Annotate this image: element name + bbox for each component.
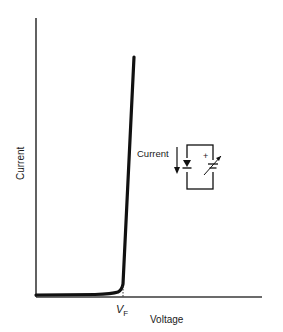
diode-iv-diagram: VF Voltage Current Current + bbox=[0, 0, 283, 332]
inset-circuit: Current + bbox=[137, 145, 221, 189]
y-axis-label: Current bbox=[15, 146, 26, 180]
vf-label: VF bbox=[116, 303, 128, 318]
iv-curve bbox=[36, 57, 134, 295]
arrowhead-icon bbox=[174, 167, 180, 174]
x-axis-label: Voltage bbox=[150, 314, 184, 325]
diode-icon bbox=[183, 158, 192, 172]
inset-current-label: Current bbox=[137, 148, 169, 159]
polarity-plus: + bbox=[203, 151, 208, 161]
